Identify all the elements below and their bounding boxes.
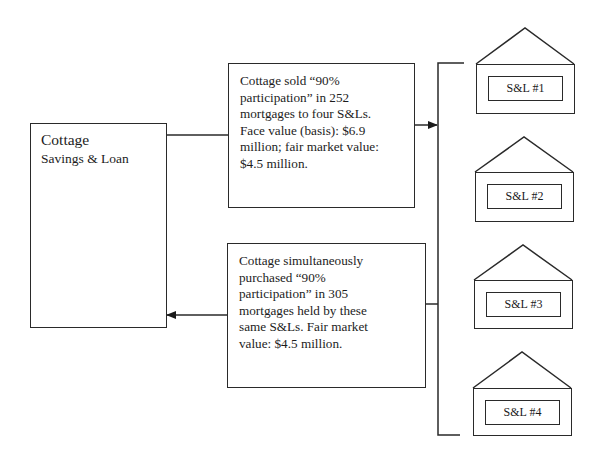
sale-line-6: $4.5 million. <box>240 156 379 173</box>
cottage-box: Cottage Savings & Loan <box>30 123 167 328</box>
purchase-line-6: value: $4.5 million. <box>239 336 368 353</box>
sale-description-text: Cottage sold “90% participation” in 252 … <box>240 73 379 172</box>
house-2-roof <box>475 137 573 172</box>
cottage-title: Cottage <box>41 131 89 149</box>
house-4-label: S&L #4 <box>485 400 560 425</box>
purchase-line-3: participation” in 305 <box>239 286 368 303</box>
house-1-label: S&L #1 <box>488 76 563 101</box>
house-2-label: S&L #2 <box>487 184 562 209</box>
house-1-roof <box>476 28 574 64</box>
house-4-roof <box>473 352 571 388</box>
purchase-line-2: purchased “90% <box>239 270 368 287</box>
house-2-body: S&L #2 <box>475 172 574 222</box>
sale-line-3: mortgages to four S&Ls. <box>240 106 379 123</box>
purchase-description-text: Cottage simultaneously purchased “90% pa… <box>239 253 368 352</box>
house-1-body: S&L #1 <box>476 64 575 114</box>
sale-line-2: participation” in 252 <box>240 90 379 107</box>
purchase-description-box: Cottage simultaneously purchased “90% pa… <box>227 243 426 388</box>
purchase-line-4: mortgages held by these <box>239 303 368 320</box>
house-3-roof <box>474 245 572 280</box>
cottage-subtitle: Savings & Loan <box>41 150 129 167</box>
sale-line-5: million; fair market value: <box>240 139 379 156</box>
purchase-line-1: Cottage simultaneously <box>239 253 368 270</box>
sale-description-box: Cottage sold “90% participation” in 252 … <box>228 63 415 208</box>
house-3-body: S&L #3 <box>474 280 573 329</box>
house-4-body: S&L #4 <box>473 388 572 436</box>
sale-line-1: Cottage sold “90% <box>240 73 379 90</box>
house-3-label: S&L #3 <box>486 292 561 317</box>
sl-bracket <box>438 63 464 435</box>
sale-line-4: Face value (basis): $6.9 <box>240 123 379 140</box>
purchase-line-5: same S&Ls. Fair market <box>239 319 368 336</box>
